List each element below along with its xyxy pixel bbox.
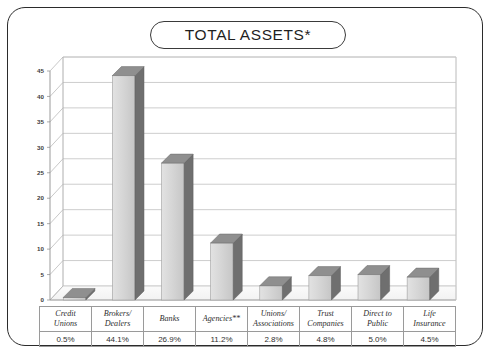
bar-4 [211, 234, 243, 300]
axis-depth-tick [50, 210, 63, 224]
category-label-line: Companies [300, 319, 351, 329]
category-data-table: CreditUnionsBrokers/DealersBanksAgencies… [39, 306, 456, 347]
bar-7 [358, 266, 390, 300]
bar-front-face [162, 163, 185, 300]
value-cell-3: 26.9% [144, 332, 196, 347]
category-cell-4: Agencies** [196, 307, 248, 332]
bar-front-face [260, 286, 283, 300]
category-cell-1: CreditUnions [40, 307, 92, 332]
category-label-line: Unions/ [248, 309, 299, 319]
y-axis-tick-label: 30 [37, 144, 44, 151]
y-axis-tick-label: 0 [41, 296, 45, 303]
category-label-line: Credit [40, 309, 91, 319]
plot-floor [50, 286, 456, 300]
category-label-line: Dealers [92, 319, 143, 329]
axis-depth-tick [50, 235, 63, 249]
axis-depth-tick [50, 82, 63, 96]
category-label-line: Direct to [352, 309, 403, 319]
bar-front-face [309, 276, 332, 300]
category-label-line: Unions [40, 319, 91, 329]
bar-side-face [135, 67, 144, 300]
bar-6 [309, 267, 341, 300]
value-cell-2: 44.1% [92, 332, 144, 347]
category-label-line: Public [352, 319, 403, 329]
bar-3 [162, 154, 194, 300]
y-axis-tick-label: 45 [37, 67, 44, 74]
chart-figure: TOTAL ASSETS* 051015202530354045 CreditU… [0, 0, 493, 355]
axis-depth-tick [50, 159, 63, 173]
category-cell-8: LifeInsurance [404, 307, 456, 332]
axis-depth-tick [50, 57, 63, 71]
category-label-line: Insurance [404, 319, 455, 329]
category-label-line: Life [404, 309, 455, 319]
table-row-categories: CreditUnionsBrokers/DealersBanksAgencies… [40, 307, 456, 332]
axis-depth-tick [50, 261, 63, 275]
y-axis-tick-label: 10 [37, 245, 44, 252]
category-label-line: Trust [300, 309, 351, 319]
axis-depth-tick [50, 133, 63, 147]
value-cell-7: 5.0% [352, 332, 404, 347]
bar-side-face [184, 154, 193, 300]
y-axis-tick-label: 35 [37, 118, 44, 125]
bar-chart-plot: 051015202530354045 [0, 0, 493, 355]
axis-depth-tick [50, 108, 63, 122]
category-label-line: Associations [248, 319, 299, 329]
bar-8 [407, 268, 439, 300]
bar-front-face [211, 243, 234, 300]
category-cell-5: Unions/Associations [248, 307, 300, 332]
bar-side-face [233, 234, 242, 300]
value-cell-5: 2.8% [248, 332, 300, 347]
axis-depth-tick [50, 184, 63, 198]
category-cell-2: Brokers/Dealers [92, 307, 144, 332]
category-cell-7: Direct toPublic [352, 307, 404, 332]
bar-front-face [358, 275, 381, 300]
bar-front-face [63, 297, 86, 300]
y-axis-tick-label: 5 [41, 271, 45, 278]
bar-2 [112, 67, 144, 300]
y-axis-tick-label: 15 [37, 220, 44, 227]
value-cell-6: 4.8% [300, 332, 352, 347]
y-axis-tick-label: 40 [37, 93, 44, 100]
y-axis-tick-label: 25 [37, 169, 44, 176]
category-label-line: Banks [144, 314, 195, 324]
y-axis-tick-label: 20 [37, 194, 44, 201]
category-cell-6: TrustCompanies [300, 307, 352, 332]
bar-front-face [407, 277, 430, 300]
category-cell-3: Banks [144, 307, 196, 332]
value-cell-8: 4.5% [404, 332, 456, 347]
category-label-line: Agencies** [196, 314, 247, 324]
bar-front-face [112, 76, 135, 300]
category-label-line: Brokers/ [92, 309, 143, 319]
table-row-values: 0.5%44.1%26.9%11.2%2.8%4.8%5.0%4.5% [40, 332, 456, 347]
value-cell-1: 0.5% [40, 332, 92, 347]
value-cell-4: 11.2% [196, 332, 248, 347]
